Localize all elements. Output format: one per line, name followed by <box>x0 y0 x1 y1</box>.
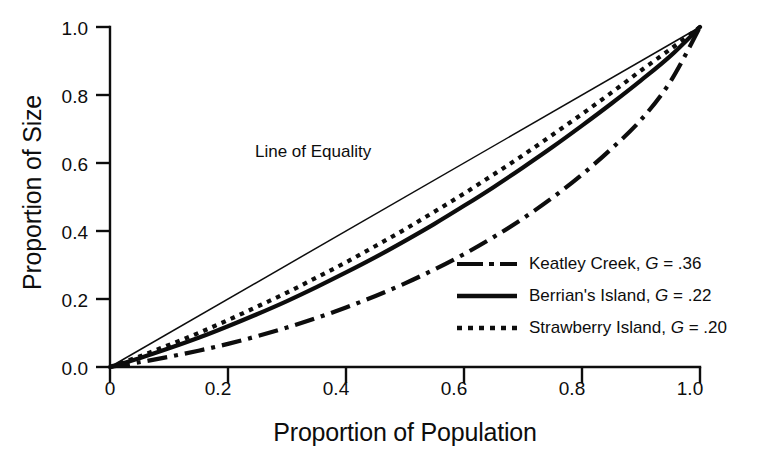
legend-gini-value-keatley: = .36 <box>658 254 701 273</box>
legend-gini-symbol-keatley: G <box>645 254 658 273</box>
legend-swatch-dotted-icon <box>455 321 517 335</box>
legend-gini-value-strawberry: = .20 <box>684 318 727 337</box>
legend: Keatley Creek, G = .36 Berrian's Island,… <box>455 248 775 344</box>
lorenz-curve-figure: Proportion of Size 0.0 0.2 0.4 0.6 0.8 1… <box>0 0 777 467</box>
legend-row-keatley-creek: Keatley Creek, G = .36 <box>455 248 775 280</box>
legend-swatch-solid-icon <box>455 289 517 303</box>
legend-name-keatley-creek: Keatley Creek, <box>529 254 645 273</box>
x-axis-ticks <box>110 367 700 383</box>
legend-gini-symbol-berrian: G <box>655 286 668 305</box>
legend-name-berrians-island: Berrian's Island, <box>529 286 655 305</box>
legend-label-strawberry-island: Strawberry Island, G = .20 <box>529 318 727 338</box>
legend-swatch-dash-dot-icon <box>455 257 517 271</box>
plot-canvas <box>0 0 777 467</box>
legend-row-strawberry-island: Strawberry Island, G = .20 <box>455 312 775 344</box>
legend-gini-symbol-strawberry: G <box>671 318 684 337</box>
legend-row-berrians-island: Berrian's Island, G = .22 <box>455 280 775 312</box>
legend-label-berrians-island: Berrian's Island, G = .22 <box>529 286 711 306</box>
legend-label-keatley-creek: Keatley Creek, G = .36 <box>529 254 701 274</box>
y-axis-ticks <box>96 27 110 367</box>
legend-gini-value-berrian: = .22 <box>668 286 711 305</box>
legend-name-strawberry-island: Strawberry Island, <box>529 318 671 337</box>
